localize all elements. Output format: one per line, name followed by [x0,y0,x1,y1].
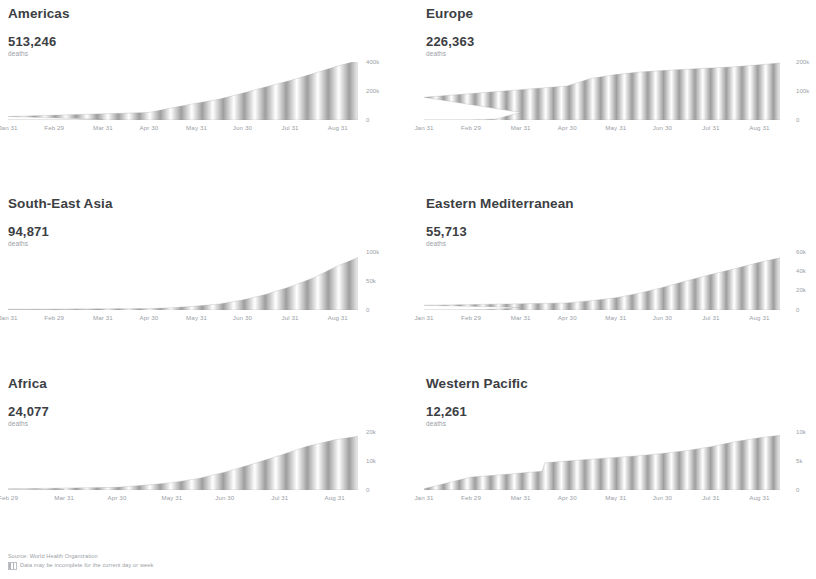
panel-unit-label: deaths [8,419,410,428]
x-axis-tick: Apr 30 [558,124,577,132]
x-axis-tick: Mar 31 [54,494,74,502]
x-axis-tick: May 31 [605,124,626,132]
plot-area [8,432,358,490]
chart-panel-western-pacific: Western Pacific12,261deaths10k5k0Jan 31F… [410,370,816,535]
panel-unit-label: deaths [426,239,816,248]
x-axis-tick: Apr 30 [108,494,127,502]
x-axis-tick: Feb 29 [461,314,481,322]
y-axis-tick: 10k [366,458,376,465]
x-axis-tick: May 31 [162,494,183,502]
x-axis-tick: Jun 30 [653,494,672,502]
area-fill [8,62,358,120]
plot-wrapper: 10k5k0Jan 31Feb 29Mar 31Apr 30May 31Jun … [410,432,816,506]
x-axis-tick: Apr 30 [558,494,577,502]
y-axis-tick: 60k [796,249,806,256]
x-axis: Jan 31Feb 29Mar 31Apr 30May 31Jun 30Jul … [424,494,780,508]
panel-title: Eastern Mediterranean [426,190,816,212]
footer-note-line: Data may be incomplete for the current d… [8,561,408,570]
x-axis: Jan 31Feb 29Mar 31Apr 30May 31Jun 30Jul … [8,124,358,138]
y-axis-tick: 20k [366,429,376,436]
panel-unit-label: deaths [426,49,816,58]
area-fill [424,435,780,490]
plot-wrapper: 60k40k20k0Jan 31Feb 29Mar 31Apr 30May 31… [410,252,816,326]
y-axis-tick: 0 [796,307,799,314]
x-axis-tick: Jul 31 [271,494,288,502]
x-axis-tick: May 31 [186,124,207,132]
area-series [424,252,780,310]
x-axis-tick: May 31 [605,494,626,502]
y-axis-tick: 200k [366,88,379,95]
plot-wrapper: 100k50k0Jan 31Feb 29Mar 31Apr 30May 31Ju… [0,252,410,326]
y-axis-tick: 100k [796,88,809,95]
chart-panel-europe: Europe226,363deaths200k100k0Jan 31Feb 29… [410,0,816,190]
footer: Source: World Health Organization Data m… [8,552,408,570]
y-axis-tick: 50k [366,278,376,285]
area-fill [424,63,780,120]
x-axis: Jan 31Feb 29Mar 31Apr 30May 31Jun 30Jul … [424,124,780,138]
x-axis-tick: Jun 30 [653,314,672,322]
area-fill [8,436,358,490]
x-axis-tick: Apr 30 [139,124,158,132]
plot-wrapper: 200k100k0Jan 31Feb 29Mar 31Apr 30May 31J… [410,62,816,136]
panel-total-deaths: 513,246 [8,22,410,49]
y-axis-tick: 400k [366,59,379,66]
x-axis-tick: Aug 31 [749,494,769,502]
panel-title: Europe [426,0,816,22]
footer-note-text: Data may be incomplete for the current d… [20,561,153,570]
region-charts-grid: Americas513,246deaths400k200k0Jan 31Feb … [0,0,816,535]
x-axis-tick: Mar 31 [93,314,113,322]
x-axis-tick: Feb 29 [44,314,64,322]
x-axis-tick: Jan 31 [414,494,433,502]
y-axis-tick: 0 [796,117,799,124]
area-series [424,62,780,120]
chart-panel-south-east-asia: South-East Asia94,871deaths100k50k0Jan 3… [0,190,410,370]
chart-panel-eastern-mediterranean: Eastern Mediterranean55,713deaths60k40k2… [410,190,816,370]
y-axis-tick: 0 [366,487,369,494]
y-axis-tick: 0 [796,487,799,494]
chart-panel-africa: Africa24,077deaths20k10k0Feb 29Mar 31Apr… [0,370,410,535]
panel-total-deaths: 226,363 [426,22,816,49]
area-series [8,252,358,310]
plot-area [8,252,358,310]
y-axis-tick: 40k [796,268,806,275]
x-axis: Jan 31Feb 29Mar 31Apr 30May 31Jun 30Jul … [424,314,780,328]
x-axis-tick: Jul 31 [702,314,719,322]
panel-unit-label: deaths [8,49,410,58]
plot-area [8,62,358,120]
x-axis-tick: Feb 29 [461,494,481,502]
x-axis-tick: Aug 31 [328,314,348,322]
y-axis: 100k50k0 [366,246,408,318]
x-axis-tick: Jul 31 [282,124,299,132]
y-axis: 10k5k0 [796,426,816,498]
x-axis-tick: May 31 [186,314,207,322]
x-axis-tick: Jun 30 [653,124,672,132]
hatched-square-icon [8,562,17,570]
y-axis-tick: 10k [796,429,806,436]
panel-total-deaths: 12,261 [426,392,816,419]
x-axis-tick: Jun 30 [215,494,234,502]
x-axis: Feb 29Mar 31Apr 30May 31Jun 30Jul 31Aug … [8,494,358,508]
x-axis-tick: Feb 29 [461,124,481,132]
y-axis: 400k200k0 [366,56,408,128]
area-series [8,432,358,490]
x-axis-tick: Jan 31 [414,314,433,322]
footer-source-text: Source: World Health Organization [8,552,98,561]
x-axis-tick: Jan 31 [414,124,433,132]
plot-area [424,432,780,490]
panel-title: Americas [8,0,410,22]
panel-total-deaths: 24,077 [8,392,410,419]
y-axis: 60k40k20k0 [796,246,816,318]
y-axis: 20k10k0 [366,426,408,498]
panel-unit-label: deaths [426,419,816,428]
x-axis-tick: Jul 31 [702,494,719,502]
x-axis-tick: Apr 30 [558,314,577,322]
area-series [8,62,358,120]
y-axis-tick: 0 [366,117,369,124]
plot-area [424,62,780,120]
area-series [424,432,780,490]
x-axis-tick: Aug 31 [328,124,348,132]
plot-wrapper: 20k10k0Feb 29Mar 31Apr 30May 31Jun 30Jul… [0,432,410,506]
x-axis-tick: Mar 31 [511,314,531,322]
y-axis-tick: 5k [796,458,803,465]
x-axis-tick: Aug 31 [325,494,345,502]
